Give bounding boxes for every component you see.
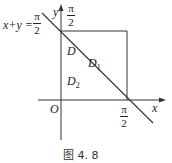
fraction-denominator: 2 bbox=[34, 25, 40, 36]
origin-label: O bbox=[50, 103, 59, 115]
fraction-denominator: 2 bbox=[121, 118, 127, 129]
region-D1-label: D1 bbox=[88, 57, 101, 72]
fraction-numerator: π bbox=[121, 104, 127, 115]
region-D2-letter: D bbox=[67, 74, 76, 88]
fraction-numerator: π bbox=[34, 11, 40, 22]
region-D2-subscript: 2 bbox=[76, 81, 80, 90]
region-D2-label: D2 bbox=[67, 75, 80, 90]
top-tick-label: π 2 bbox=[67, 3, 75, 28]
x-axis-arrow-icon bbox=[159, 98, 166, 103]
figure-caption: 图 4. 8 bbox=[63, 146, 99, 162]
fraction-numerator: π bbox=[68, 3, 74, 14]
x-axis-label: x bbox=[152, 102, 157, 114]
y-axis-label: y bbox=[53, 6, 58, 18]
y-axis-arrow-icon bbox=[59, 4, 64, 11]
region-D1-letter: D bbox=[88, 56, 97, 70]
fraction-denominator: 2 bbox=[68, 17, 74, 28]
region-D-label: D bbox=[67, 45, 76, 57]
right-tick-label: π 2 bbox=[120, 104, 128, 129]
line-equation-label: x+y = bbox=[3, 19, 33, 31]
line-equation-fraction: π 2 bbox=[33, 11, 41, 36]
region-D1-subscript: 1 bbox=[97, 63, 101, 72]
